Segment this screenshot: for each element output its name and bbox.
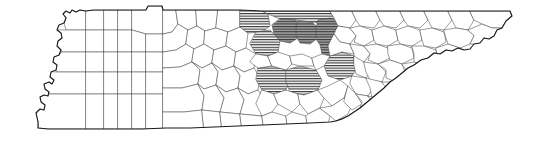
county — [420, 28, 446, 48]
county — [104, 30, 118, 52]
county — [118, 52, 132, 72]
county — [352, 11, 380, 28]
county — [384, 78, 402, 102]
county — [146, 94, 163, 129]
county — [262, 112, 288, 129]
county — [376, 11, 404, 28]
highlighted-county-hatched — [256, 66, 290, 94]
county — [118, 30, 132, 52]
highlighted-county-shaded — [296, 21, 318, 44]
county — [104, 10, 118, 30]
county — [163, 84, 204, 112]
county — [118, 94, 132, 129]
tennessee-county-map: Tennessee county map — [0, 0, 537, 141]
county — [36, 94, 86, 129]
county — [132, 52, 146, 72]
map-svg — [0, 0, 537, 141]
county — [146, 52, 163, 72]
county — [202, 110, 222, 129]
county — [104, 52, 118, 72]
county — [86, 94, 104, 129]
county — [290, 54, 314, 66]
county — [470, 11, 512, 28]
county — [104, 72, 118, 94]
county — [286, 112, 308, 129]
county — [274, 90, 300, 112]
county — [402, 62, 428, 82]
county-layer — [36, 6, 512, 129]
county — [104, 94, 118, 129]
county — [163, 110, 204, 129]
county — [396, 78, 420, 96]
county — [146, 72, 163, 94]
county — [372, 26, 398, 46]
region-west-tennessee — [36, 6, 163, 129]
county — [118, 10, 132, 30]
region-east-tennessee — [328, 11, 512, 122]
county — [240, 114, 264, 129]
county — [86, 72, 104, 94]
county — [146, 34, 163, 52]
county — [132, 30, 146, 52]
county — [86, 52, 104, 72]
county — [132, 94, 146, 129]
highlighted-county-hatched — [240, 10, 270, 33]
county — [63, 10, 86, 30]
county — [382, 82, 404, 98]
county — [396, 26, 422, 46]
county — [118, 72, 132, 94]
county — [424, 11, 452, 30]
county — [86, 30, 104, 52]
county — [400, 11, 428, 28]
county — [132, 72, 146, 94]
county — [86, 10, 104, 30]
